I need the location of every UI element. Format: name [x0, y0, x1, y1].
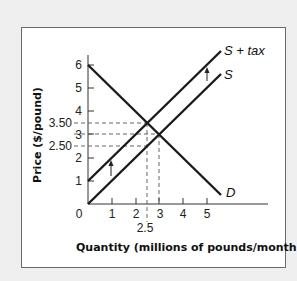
x-tick-label: 4	[180, 207, 187, 221]
curve-label-s-tax: S + tax	[224, 43, 265, 58]
origin-label: 0	[76, 207, 83, 221]
y-tick-label: 2	[75, 151, 82, 165]
supply-curve	[88, 74, 221, 204]
y-tick-label: 4	[75, 104, 82, 118]
dashed-guides	[74, 123, 159, 222]
x-ticks	[112, 198, 207, 204]
y-tick-label: 1	[75, 174, 82, 188]
x-tick-label: 1	[109, 207, 116, 221]
y-axis-title: Price ($/pound)	[31, 87, 44, 183]
x-tick-label-2-5: 2.5	[137, 221, 154, 235]
curve-label-d: D	[226, 185, 235, 200]
shift-arrow-icon	[205, 67, 210, 81]
x-axis-title: Quantity (millions of pounds/month)	[76, 241, 297, 254]
y-tick-label: 6	[75, 58, 82, 72]
y-tick-label: 5	[75, 81, 82, 95]
x-tick-label: 2	[133, 207, 140, 221]
supply-plus-tax-curve	[88, 51, 221, 181]
demand-curve	[88, 65, 221, 195]
shift-arrow-icon	[109, 160, 114, 176]
supply-demand-chart: 6 5 4 3.50 3 2.50 2 1 0 1 2 3 4 5 2.5 S …	[0, 0, 297, 281]
y-tick-label-2-50: 2.50	[49, 139, 73, 153]
x-tick-label: 3	[157, 207, 164, 221]
y-tick-label-3-50: 3.50	[49, 116, 73, 130]
y-tick-label: 3	[75, 128, 82, 142]
curve-label-s: S	[224, 67, 233, 82]
x-tick-label: 5	[204, 207, 211, 221]
